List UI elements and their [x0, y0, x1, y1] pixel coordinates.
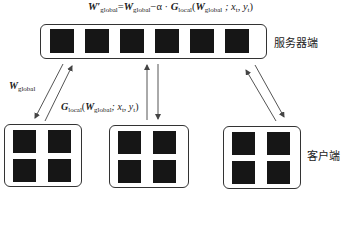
client-box-2 — [109, 125, 189, 188]
client-param-block — [153, 131, 176, 154]
client-box-3 — [223, 126, 301, 189]
download-arrow-client-1 — [35, 64, 63, 118]
client-label: 客户端 — [307, 147, 340, 163]
client-param-block — [48, 130, 71, 153]
client-param-block — [48, 159, 71, 182]
client-box-1 — [4, 124, 82, 187]
client-param-block — [13, 159, 36, 182]
upload-label: Glocal(Wglobal; xt, yt) — [61, 101, 139, 114]
client-param-block — [267, 132, 290, 155]
client-param-block — [232, 161, 255, 184]
client-param-block — [118, 131, 141, 154]
download-label: Wglobal — [9, 80, 35, 93]
client-param-block — [153, 160, 176, 183]
client-param-block — [13, 130, 36, 153]
client-param-block — [267, 161, 290, 184]
client-param-block — [118, 160, 141, 183]
client-param-block — [232, 132, 255, 155]
